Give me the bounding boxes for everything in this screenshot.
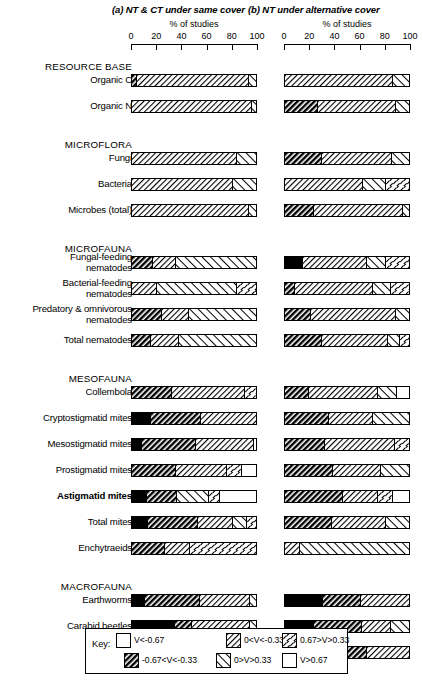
bar-segment-dash-scatter <box>400 335 410 346</box>
bar-segment-light-hatch-back <box>329 413 373 424</box>
bar-segment-dash-scatter <box>237 283 257 294</box>
row-cryptostigmatid-mites-bar-b <box>284 412 410 425</box>
bar-segment-solid-black <box>132 413 151 424</box>
bar-segment-dense-hatch-back <box>132 309 162 320</box>
row-fungi-bar-b <box>284 152 410 165</box>
axis-unit-label-b: % of studies <box>307 19 387 29</box>
axis-tickmark <box>360 44 361 50</box>
bar-segment-dash-scatter <box>391 283 410 294</box>
bar-segment-sparse-hatch-fwd <box>176 257 257 268</box>
bar-segment-dash-scatter <box>386 179 410 190</box>
bar-segment-dash-scatter <box>227 465 242 476</box>
panel-title-b: (b) NT under alternative cover <box>248 4 380 15</box>
axis-line-a <box>131 44 257 51</box>
row-astigmatid-mites-bar-a <box>131 490 257 503</box>
row-mesostigmatid-mites-bar-b <box>284 438 410 451</box>
bar-segment-dense-hatch-back <box>285 413 329 424</box>
panel-title-a: (a) NT & CT under same cover <box>112 4 245 15</box>
bar-segment-sparse-hatch-fwd <box>237 153 257 164</box>
axis-tickmark <box>284 44 285 50</box>
bar-segment-light-hatch-back <box>151 335 179 346</box>
row-label-microbes-total: Microbes (total) <box>68 205 132 216</box>
row-fungal-feeding-nematodes-bar-a <box>131 256 257 269</box>
bar-segment-dense-hatch-back <box>285 283 295 294</box>
row-label-astigmatid-mites: Astigmatid mites <box>57 491 132 502</box>
bar-segment-light-hatch-back <box>132 283 157 294</box>
bar-segment-dense-hatch-back <box>323 595 361 606</box>
bar-segment-dense-hatch-back <box>285 153 322 164</box>
bar-segment-dense-hatch-back <box>132 387 172 398</box>
row-predatory-omnivorous-nematodes-bar-b <box>284 308 410 321</box>
row-microbes-total-bar-b <box>284 204 410 217</box>
row-organic-c-bar-b <box>284 74 410 87</box>
bar-segment-white <box>397 387 410 398</box>
bar-segment-white <box>393 491 410 502</box>
bar-segment-light-hatch-back <box>285 179 363 190</box>
bar-segment-light-hatch-back <box>318 101 396 112</box>
bar-segment-light-hatch-back <box>295 283 373 294</box>
axis-unit-label-a: % of studies <box>154 19 234 29</box>
bar-segment-light-hatch-back <box>285 543 300 554</box>
row-bacteria-bar-a <box>131 178 257 191</box>
row-collembola-bar-a <box>131 386 257 399</box>
bar-segment-sparse-hatch-fwd <box>157 283 237 294</box>
row-enchytraeids-bar-a <box>131 542 257 555</box>
bar-segment-dash-scatter <box>190 543 257 554</box>
axis-tickmark <box>207 44 208 50</box>
bar-segment-sparse-hatch-fwd <box>300 543 410 554</box>
legend-swatch-dash-scatter <box>282 633 297 648</box>
axis-baseline <box>131 44 257 45</box>
axis-line-b <box>284 44 410 51</box>
bar-segment-sparse-hatch-fwd <box>250 595 257 606</box>
row-cryptostigmatid-mites-bar-a <box>131 412 257 425</box>
group-label-macrofauna: MACROFAUNA <box>61 581 132 592</box>
axis-tickmark <box>385 44 386 50</box>
bar-segment-dash-scatter <box>247 517 257 528</box>
legend-swatch-sparse-hatch-fwd <box>216 653 231 668</box>
bar-segment-light-hatch-back <box>172 387 245 398</box>
bar-segment-sparse-hatch-fwd <box>388 335 400 346</box>
bar-segment-light-hatch-back <box>303 257 367 268</box>
axis-tickmark <box>334 44 335 50</box>
bar-segment-dense-hatch-back <box>132 257 153 268</box>
row-label-fungi: Fungi <box>109 153 132 164</box>
bar-segment-dense-hatch-back <box>132 335 151 346</box>
bar-segment-sparse-hatch-fwd <box>392 153 410 164</box>
bar-segment-sparse-hatch-fwd <box>177 491 209 502</box>
bar-segment-dense-hatch-back <box>285 465 333 476</box>
bar-segment-light-hatch-back <box>200 595 250 606</box>
bar-segment-solid-black <box>285 595 323 606</box>
bar-segment-sparse-hatch-fwd <box>373 413 410 424</box>
bar-segment-light-hatch-back <box>201 413 257 424</box>
bar-segment-light-hatch-back <box>343 491 378 502</box>
bar-segment-sparse-hatch-fwd <box>189 309 257 320</box>
row-label-bacterial-feeding-nematodes: Bacterial-feeding nematodes <box>63 278 132 299</box>
bar-segment-sparse-hatch-fwd <box>233 179 257 190</box>
row-bacterial-feeding-nematodes-bar-b <box>284 282 410 295</box>
row-label-total-nematodes: Total nematodes <box>64 335 132 346</box>
axis-tickmark <box>309 44 310 50</box>
legend-swatch-light-hatch-back <box>226 633 241 648</box>
bar-segment-light-hatch-back <box>322 153 392 164</box>
row-fungi-bar-a <box>131 152 257 165</box>
row-label-total-mites: Total mites <box>88 517 132 528</box>
bar-segment-light-hatch-back <box>153 257 176 268</box>
bar-segment-dense-hatch-back <box>285 517 332 528</box>
row-predatory-omnivorous-nematodes-bar-a <box>131 308 257 321</box>
bar-segment-sparse-hatch-fwd <box>373 283 391 294</box>
row-earthworms-bar-a <box>131 594 257 607</box>
bar-segment-sparse-hatch-fwd <box>378 387 397 398</box>
bar-segment-light-hatch-back <box>314 205 403 216</box>
bar-segment-dense-hatch-back <box>285 335 322 346</box>
bar-segment-sparse-hatch-fwd <box>381 465 410 476</box>
row-earthworms-bar-b <box>284 594 410 607</box>
bar-segment-dash-scatter <box>386 257 410 268</box>
figure-root: (a) NT & CT under same cover% of studies… <box>0 0 423 681</box>
bar-segment-dense-hatch-back <box>151 413 201 424</box>
group-label-microflora: MICROFLORA <box>65 139 132 150</box>
group-label-mesofauna: MESOFAUNA <box>69 373 132 384</box>
row-label-organic-n: Organic N <box>90 101 132 112</box>
bar-segment-light-hatch-back <box>332 517 386 528</box>
bar-segment-dash-scatter <box>209 491 220 502</box>
bar-segment-dense-hatch-back <box>132 543 165 554</box>
